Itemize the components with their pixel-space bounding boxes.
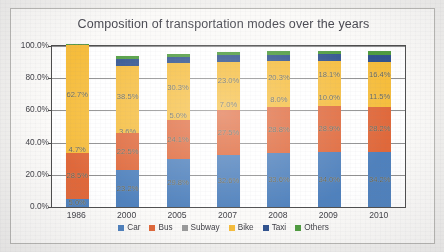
bar-value-label: 28.2% — [369, 125, 391, 133]
y-axis-tick-label: 100.0% — [11, 40, 49, 50]
bar-value-label: 28.8% — [268, 126, 290, 134]
x-axis-tick-label: 2009 — [303, 210, 353, 220]
stacked-bar[interactable]: 29.8%24.1%30.3%5.0% — [167, 46, 190, 207]
bar-segment-others[interactable] — [167, 54, 190, 57]
bar-segment-bike[interactable]: 18.1%10.0% — [318, 61, 341, 106]
bar-segment-car[interactable]: 32.6% — [217, 155, 240, 207]
stacked-bar[interactable]: 5.0%28.5%62.7%4.7%0.5% — [66, 46, 89, 207]
legend-swatch-icon — [149, 225, 155, 231]
x-axis-tick-label: 2005 — [152, 210, 202, 220]
bar-value-label: 8.0% — [270, 96, 287, 104]
bar-segment-bike[interactable]: 23.0%7.0% — [217, 62, 240, 110]
stacked-bar[interactable]: 23.2%22.5%38.5%3.6% — [116, 46, 139, 207]
bar-value-label: 3.6% — [119, 128, 136, 134]
bar-segment-bus[interactable]: 28.5% — [66, 153, 89, 199]
bar-value-label: 24.1% — [167, 136, 189, 144]
y-axis-tick-label: 0.0% — [11, 201, 49, 211]
bar-segment-bus[interactable]: 22.5% — [116, 133, 139, 169]
y-axis-tick — [48, 175, 52, 176]
bar-value-label: 28.5% — [66, 172, 88, 180]
legend-swatch-icon — [295, 225, 301, 231]
bar-value-label: 23.0% — [218, 77, 240, 85]
bar-value-label: 22.5% — [117, 148, 139, 156]
bar-segment-others[interactable] — [318, 51, 341, 54]
bar-value-label: 29.8% — [167, 179, 189, 187]
y-axis-tick-labels: 0.0%20.0%40.0%60.0%80.0%100.0% — [11, 45, 49, 208]
y-axis-tick — [48, 143, 52, 144]
bar-segment-car[interactable]: 29.8% — [167, 159, 190, 207]
bar-segment-bus[interactable]: 24.1% — [167, 120, 190, 159]
x-axis-tick-label: 2008 — [253, 210, 303, 220]
legend-item-subway[interactable]: Subway — [182, 223, 220, 232]
bar-segment-others[interactable] — [116, 56, 139, 59]
bar-segment-taxi[interactable] — [267, 55, 290, 61]
bar-segment-bike[interactable]: 30.3%5.0% — [167, 63, 190, 120]
bar-value-label: 34.0% — [319, 176, 341, 184]
bar-segment-others[interactable]: 0.5% — [66, 44, 89, 45]
bar-segment-car[interactable]: 5.0% — [66, 199, 89, 207]
legend-swatch-icon — [263, 225, 269, 231]
stacked-bar[interactable]: 34.0%28.9%18.1%10.0% — [318, 46, 341, 207]
bar-segment-bike[interactable]: 20.3%8.0% — [267, 61, 290, 107]
x-axis-tick-label: 2007 — [202, 210, 252, 220]
bar-segment-bus[interactable]: 27.5% — [217, 110, 240, 154]
stacked-bar[interactable]: 34.2%28.2%16.4%11.5% — [368, 46, 391, 207]
chart-legend: CarBusSubwayBikeTaxiOthers — [11, 223, 436, 232]
bar-value-label: 23.2% — [117, 185, 139, 193]
legend-item-bike[interactable]: Bike — [229, 223, 254, 232]
legend-item-taxi[interactable]: Taxi — [263, 223, 287, 232]
x-axis-tick-labels: 1986200020052007200820092010 — [51, 210, 406, 224]
bar-value-label: 62.7% — [66, 91, 88, 99]
bar-segment-bike[interactable]: 62.7%4.7% — [66, 45, 89, 154]
y-axis-tick — [48, 207, 52, 208]
y-axis-tick-label: 60.0% — [11, 104, 49, 114]
bar-segment-taxi[interactable] — [217, 55, 240, 62]
bar-segment-car[interactable]: 23.2% — [116, 170, 139, 207]
bar-segment-bus[interactable]: 28.2% — [368, 107, 391, 152]
bar-segment-taxi[interactable] — [318, 54, 341, 60]
y-axis-tick — [48, 110, 52, 111]
x-axis-tick-label: 2010 — [354, 210, 404, 220]
bar-segment-car[interactable]: 33.6% — [267, 153, 290, 207]
legend-label: Taxi — [272, 223, 287, 232]
bar-value-label: 20.3% — [268, 74, 290, 82]
legend-item-others[interactable]: Others — [295, 223, 329, 232]
bar-segment-bus[interactable]: 28.9% — [318, 106, 341, 153]
bar-segment-car[interactable]: 34.2% — [368, 152, 391, 207]
y-axis-tick-label: 20.0% — [11, 169, 49, 179]
bar-segment-taxi[interactable] — [116, 59, 139, 66]
bar-segment-bus[interactable]: 28.8% — [267, 107, 290, 153]
bar-value-label: 7.0% — [220, 101, 237, 109]
chart-title: Composition of transportation modes over… — [11, 17, 436, 31]
bar-value-label: 34.2% — [369, 176, 391, 184]
bar-value-label: 16.4% — [369, 71, 391, 79]
y-axis-tick-label: 40.0% — [11, 137, 49, 147]
bar-segment-car[interactable]: 34.0% — [318, 152, 341, 207]
legend-label: Others — [304, 223, 329, 232]
bar-segment-bike[interactable]: 38.5%3.6% — [116, 66, 139, 134]
legend-swatch-icon — [182, 225, 188, 231]
bar-segment-taxi[interactable] — [167, 57, 190, 64]
bar-segment-bike[interactable]: 16.4%11.5% — [368, 62, 391, 107]
bar-value-label: 4.7% — [69, 146, 86, 154]
bar-segment-taxi[interactable] — [368, 55, 391, 62]
plot-area: 5.0%28.5%62.7%4.7%0.5%23.2%22.5%38.5%3.6… — [51, 45, 406, 208]
legend-label: Subway — [191, 223, 220, 232]
scanned-page: Composition of transportation modes over… — [0, 0, 444, 252]
legend-swatch-icon — [118, 225, 124, 231]
legend-label: Car — [127, 223, 140, 232]
bar-segment-others[interactable] — [368, 51, 391, 54]
x-axis-tick-label: 1986 — [51, 210, 101, 220]
y-axis-tick — [48, 46, 52, 47]
bar-value-label: 5.0% — [69, 199, 86, 207]
bar-value-label: 11.5% — [369, 93, 390, 101]
legend-label: Bus — [158, 223, 172, 232]
legend-item-bus[interactable]: Bus — [149, 223, 172, 232]
y-axis-tick-label: 80.0% — [11, 72, 49, 82]
bar-segment-others[interactable] — [267, 51, 290, 55]
stacked-bar[interactable]: 33.6%28.8%20.3%8.0% — [267, 46, 290, 207]
bar-segment-others[interactable] — [217, 52, 240, 55]
stacked-bar[interactable]: 32.6%27.5%23.0%7.0% — [217, 46, 240, 207]
legend-item-car[interactable]: Car — [118, 223, 140, 232]
bar-value-label: 28.9% — [319, 125, 341, 133]
